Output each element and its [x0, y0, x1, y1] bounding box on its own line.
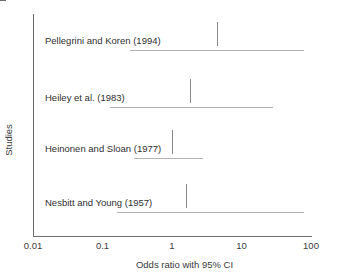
- y-axis-line: [33, 14, 34, 236]
- x-axis-title: Odds ratio with 95% CI: [0, 259, 341, 270]
- point-estimate-tick: [190, 79, 191, 103]
- study-label: Pellegrini and Koren (1994): [45, 35, 161, 46]
- confidence-interval-line: [117, 212, 305, 213]
- point-estimate-tick: [217, 22, 218, 46]
- x-tick-label-0: 0.01: [24, 240, 43, 251]
- study-label: Heinonen and Sloan (1977): [45, 143, 161, 154]
- y-axis-title-label: Studies: [3, 124, 14, 156]
- point-estimate-tick: [172, 130, 173, 154]
- point-estimate-tick: [186, 184, 187, 208]
- forest-plot: Studies 0.010.1110100 Pellegrini and Kor…: [0, 0, 341, 279]
- x-tick-label-1: 0.1: [96, 240, 109, 251]
- x-tick-label-2: 1: [169, 240, 174, 251]
- y-axis-title: Studies: [2, 100, 14, 180]
- study-label: Heiley et al. (1983): [45, 92, 125, 103]
- x-tick-label-4: 100: [303, 240, 319, 251]
- confidence-interval-line: [130, 50, 304, 51]
- x-axis-title-label: Odds ratio with 95% CI: [108, 259, 233, 270]
- x-tick-label-3: 10: [236, 240, 247, 251]
- x-axis-line: [33, 236, 312, 237]
- y-axis-tick-mark: [0, 0, 6, 1]
- study-label: Nesbitt and Young (1957): [45, 197, 152, 208]
- confidence-interval-line: [134, 158, 204, 159]
- confidence-interval-line: [110, 107, 272, 108]
